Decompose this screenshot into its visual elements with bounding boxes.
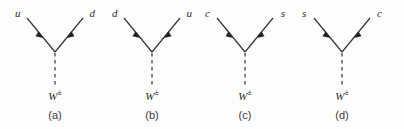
arrowhead-right-outgoing bbox=[67, 31, 75, 38]
w-boson-superscript: ± bbox=[57, 88, 61, 97]
panel-caption: (d) bbox=[292, 110, 392, 121]
arrowhead-left-incoming bbox=[226, 31, 234, 38]
feynman-diagram-b: d u W± (b) bbox=[102, 0, 202, 129]
arrowhead-left-incoming bbox=[323, 31, 331, 38]
panel-caption: (a) bbox=[5, 110, 105, 121]
feynman-diagram-a: u d W± (a) bbox=[5, 0, 105, 129]
w-boson-label: W± bbox=[102, 89, 202, 102]
arrowhead-right-outgoing bbox=[257, 31, 265, 38]
w-boson-label: W± bbox=[195, 89, 295, 102]
w-boson-superscript: ± bbox=[247, 88, 251, 97]
w-boson-symbol: W bbox=[48, 90, 57, 102]
particle-label-right: u bbox=[187, 8, 193, 19]
particle-label-left: s bbox=[302, 8, 306, 19]
w-boson-symbol: W bbox=[238, 90, 247, 102]
arrowhead-right-outgoing bbox=[354, 31, 362, 38]
w-boson-label: W± bbox=[292, 89, 392, 102]
w-boson-symbol: W bbox=[145, 90, 154, 102]
arrowhead-left-incoming bbox=[133, 31, 141, 38]
particle-label-left: d bbox=[112, 8, 118, 19]
feynman-diagram-d: s c W± (d) bbox=[292, 0, 392, 129]
w-boson-superscript: ± bbox=[154, 88, 158, 97]
w-boson-label: W± bbox=[5, 89, 105, 102]
panel-caption: (c) bbox=[195, 110, 295, 121]
w-boson-symbol: W bbox=[335, 90, 344, 102]
particle-label-right: c bbox=[377, 8, 382, 19]
feynman-diagram-figure: u d W± (a) d u W± (b) bbox=[0, 0, 404, 129]
arrowhead-right-outgoing bbox=[164, 31, 172, 38]
feynman-diagram-c: c s W± (c) bbox=[195, 0, 295, 129]
particle-label-left: u bbox=[15, 8, 21, 19]
w-boson-superscript: ± bbox=[344, 88, 348, 97]
panel-caption: (b) bbox=[102, 110, 202, 121]
particle-label-right: s bbox=[281, 8, 285, 19]
particle-label-left: c bbox=[205, 8, 210, 19]
particle-label-right: d bbox=[90, 8, 96, 19]
arrowhead-left-incoming bbox=[36, 31, 44, 38]
